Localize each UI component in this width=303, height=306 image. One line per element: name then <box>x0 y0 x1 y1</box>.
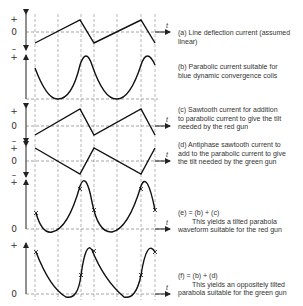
panel-d <box>26 146 170 177</box>
caption-d-line3: the tilt needed by the green gun <box>178 158 276 165</box>
caption-b-line2: blue dynamic convergence coils <box>178 72 277 79</box>
caption-e-line3: waveform suitable for the red gun <box>178 226 282 233</box>
panel-a <box>26 14 170 50</box>
caption-a-line2: linear) <box>178 38 197 45</box>
panel-c-zero: 0 <box>11 121 17 131</box>
caption-e: (e) = (b) + (c) This yields a tilted par… <box>178 209 302 235</box>
panel-e-plus: + <box>10 177 18 187</box>
caption-f: (f) = (b) + (d) This yields an oppositel… <box>178 272 302 298</box>
panel-f-zero: 0 <box>11 289 17 299</box>
marker-crosses <box>34 187 157 215</box>
caption-c-line3: needed by the red gun <box>178 123 248 130</box>
panel-b-plus: + <box>10 52 18 62</box>
caption-d: (d) Antiphase sawtooth current to add to… <box>178 141 302 167</box>
caption-d-line2: add to the parabolic current to give <box>178 150 286 157</box>
caption-e-line2: This yields a tilted parabola <box>178 218 302 227</box>
panel-e-zero: 0 <box>11 224 17 234</box>
panel-f-plus: + <box>10 240 18 250</box>
panel-d-zero: 0 <box>11 156 17 166</box>
panel-d-plus: + <box>10 143 18 153</box>
marker-crosses <box>34 249 157 277</box>
panel-c-plus: + <box>10 106 18 116</box>
panel-c <box>26 108 170 143</box>
time-labels: t t t t t <box>166 22 169 291</box>
panel-f <box>26 243 170 297</box>
panel-a-zero: 0 <box>11 27 17 37</box>
time-label-e: t <box>166 219 169 226</box>
time-label-a: t <box>166 22 169 29</box>
caption-f-line3: parabola suitable for the green gun <box>178 289 287 296</box>
caption-f-line2: This yields an oppositely tilted <box>178 281 302 290</box>
caption-b: (b) Parabolic current suitable for blue … <box>178 63 302 80</box>
caption-a: (a) Line deflection current (assumed lin… <box>178 29 302 46</box>
time-label-d: t <box>166 151 169 158</box>
caption-e-line1: (e) = (b) + (c) <box>178 209 219 216</box>
time-label-f: t <box>166 284 169 291</box>
time-label-c: t <box>166 116 169 123</box>
caption-d-line1: (d) Antiphase sawtooth current to <box>178 141 281 148</box>
panel-e <box>26 180 170 232</box>
sign-labels: + 0 – + + 0 – + 0 – + 0 + 0 <box>10 14 18 299</box>
caption-f-line1: (f) = (b) + (d) <box>178 272 218 279</box>
panel-a-plus: + <box>10 14 18 24</box>
caption-c-line1: (c) Sawtooth current for addition <box>178 106 278 113</box>
caption-b-line1: (b) Parabolic current suitable for <box>178 63 278 70</box>
caption-a-line1: (a) Line deflection current (assumed <box>178 29 290 36</box>
panel-b <box>26 55 158 99</box>
caption-c-line2: to parabolic current to give the tilt <box>178 115 281 122</box>
caption-c: (c) Sawtooth current for addition to par… <box>178 106 302 132</box>
